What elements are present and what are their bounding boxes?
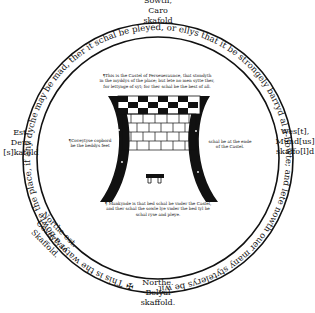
- bed-icon: [146, 174, 164, 183]
- castle-icon: [100, 96, 218, 202]
- south-scaffold-label: Sowth, Caro skafold: [128, 0, 188, 26]
- west-scaffold-label: Wes[t], Mund[us] skaffo[l]d: [274, 127, 315, 157]
- west-label-line3: skaffo[l]d: [274, 147, 315, 157]
- castle-end-note-line: of the Castel.: [202, 144, 258, 149]
- staging-diagram: ✠ This is the watyr a-bowte the place, i…: [0, 0, 315, 313]
- castle-top-note: ¶This is the Castel of Perseueraunce, th…: [82, 73, 232, 89]
- south-label-line3: skafold: [128, 16, 188, 26]
- west-label-line2: Mund[us]: [274, 137, 315, 147]
- coveytyse-note-line: be the beddys feet: [60, 143, 120, 148]
- east-label-line1: Est.: [0, 128, 42, 138]
- north-label-line3: skaffold.: [128, 298, 188, 308]
- north-label-line1: Northe.: [128, 278, 188, 288]
- south-label-line2: Caro: [128, 6, 188, 16]
- east-label-line2: Deus: [0, 138, 42, 148]
- castle-note-line: for lettynge of syt; for ther schal be t…: [82, 84, 232, 89]
- west-label-line1: Wes[t],: [274, 127, 315, 137]
- castle-end-note: schal be at the ende of the Castel.: [202, 139, 258, 150]
- mankynde-bed-note: ¶ Mankynde is that bed schal be vnder th…: [88, 201, 228, 217]
- north-label-line2: Belyal: [128, 288, 188, 298]
- mankynde-note-line: schal ryse and pleye.: [88, 212, 228, 217]
- east-label-line3: [s]kafold: [0, 148, 42, 158]
- north-scaffold-label: Northe. Belyal skaffold.: [128, 278, 188, 308]
- coveytyse-note: ¶Coveytyse copbord be the beddys feet: [60, 138, 120, 149]
- east-scaffold-label: Est. Deus [s]kafold: [0, 128, 42, 158]
